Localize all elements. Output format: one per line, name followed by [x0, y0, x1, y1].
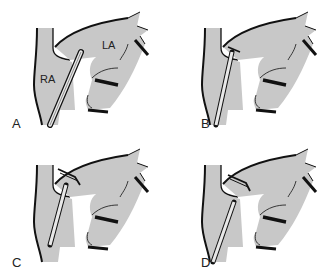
- panel-a: [34, 12, 148, 125]
- panel-b: [202, 12, 316, 125]
- label-left-atrium: LA: [102, 39, 115, 51]
- label-right-atrium: RA: [40, 73, 55, 85]
- panel-label-d: D: [201, 255, 210, 270]
- panel-c: [34, 149, 148, 262]
- panel-label-c: C: [12, 255, 21, 270]
- panel-d: [202, 149, 316, 262]
- panel-label-b: B: [201, 116, 210, 131]
- panel-label-a: A: [12, 116, 21, 131]
- diagram-canvas: [0, 0, 336, 275]
